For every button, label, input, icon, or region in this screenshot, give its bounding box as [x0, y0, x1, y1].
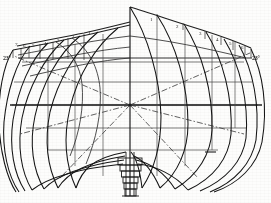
inner-sweep-left-2: [72, 38, 100, 164]
right-station-3-label: 3: [199, 31, 201, 36]
station-curve-right-1: [130, 7, 161, 188]
left-station-6-label: 6: [23, 43, 25, 48]
garboard-right-4: [138, 164, 188, 190]
hull-lines-drawing: [0, 0, 271, 203]
left-station-3-label: 3: [57, 38, 59, 43]
diagonal-left-lower: [60, 105, 130, 178]
sheer-line-group: [13, 7, 251, 50]
garboard-left-4: [32, 164, 123, 190]
left-station-4-label: 4: [44, 41, 46, 46]
station-curve-group-right: [130, 7, 265, 192]
right-station-5-label: 5: [229, 41, 231, 46]
station-curve-left-6: [4, 46, 30, 192]
left-station-5-label: 5: [32, 43, 34, 48]
left-station-1-label: 1: [88, 30, 90, 35]
centre-node: [128, 103, 131, 106]
right-station-2-label: 2: [176, 24, 178, 29]
station-curve-right-4: [188, 32, 231, 190]
right-station-6-label: 6: [241, 45, 243, 50]
diagonal-left-upper: [14, 56, 130, 105]
station-curve-left-outer: [0, 50, 16, 192]
right-station-1-label: 1: [150, 17, 152, 22]
inner-sweep-left: [56, 42, 83, 156]
right-angle-label: 23°: [252, 56, 260, 61]
body-plan-figure: 23° 7 6 5 4 3 2 1 1 2 3 4 5 6 23°: [0, 0, 271, 203]
left-station-7-label: 7: [15, 42, 17, 47]
left-angle-label: 23°: [3, 56, 11, 61]
diagonal-right-upper: [130, 53, 250, 105]
right-station-4-label: 4: [216, 37, 218, 42]
left-station-2-label: 2: [72, 34, 74, 39]
